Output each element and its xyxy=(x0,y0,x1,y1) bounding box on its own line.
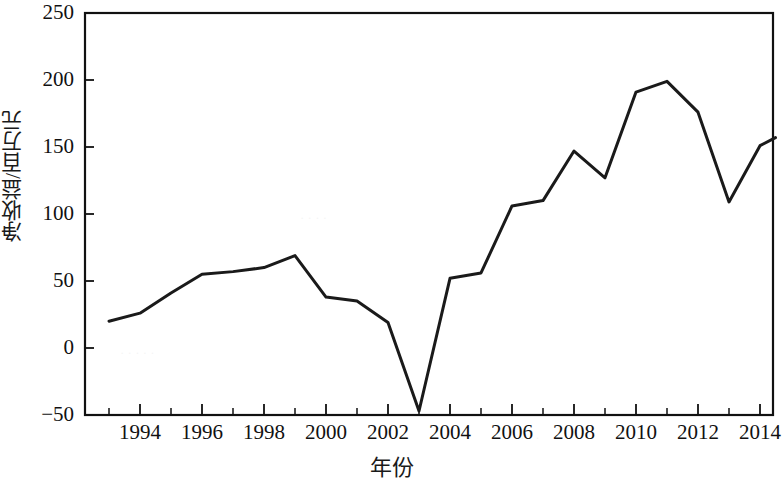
x-tick-label: 2010 xyxy=(604,421,668,444)
chart-figure: 净收益/百万元 年份 −50050100150200250 1994199619… xyxy=(0,0,783,479)
x-tick-label: 2000 xyxy=(294,421,358,444)
x-tick-label: 2014 xyxy=(728,421,783,444)
data-series-line xyxy=(109,81,776,411)
x-tick-label: 1994 xyxy=(108,421,172,444)
x-tick-label: 2008 xyxy=(542,421,606,444)
x-axis-label: 年份 xyxy=(0,449,783,479)
x-tick-label: 2004 xyxy=(418,421,482,444)
plot-area xyxy=(0,0,783,479)
y-tick-label: 100 xyxy=(43,203,75,224)
y-tick-label: 50 xyxy=(53,270,74,291)
y-tick-label: 200 xyxy=(43,69,75,90)
x-tick-label: 1996 xyxy=(170,421,234,444)
axes-frame xyxy=(85,13,773,415)
y-tick-label: 250 xyxy=(43,2,75,23)
y-axis-label: 净收益/百万元 xyxy=(2,110,36,242)
y-tick-label: 0 xyxy=(64,337,75,358)
x-tick-label: 2012 xyxy=(666,421,730,444)
x-tick-label: 1998 xyxy=(232,421,296,444)
y-tick-label: 150 xyxy=(43,136,75,157)
y-tick-label: −50 xyxy=(41,404,74,425)
x-tick-label: 2006 xyxy=(480,421,544,444)
y-axis-ticks xyxy=(85,13,94,415)
x-tick-label: 2002 xyxy=(356,421,420,444)
